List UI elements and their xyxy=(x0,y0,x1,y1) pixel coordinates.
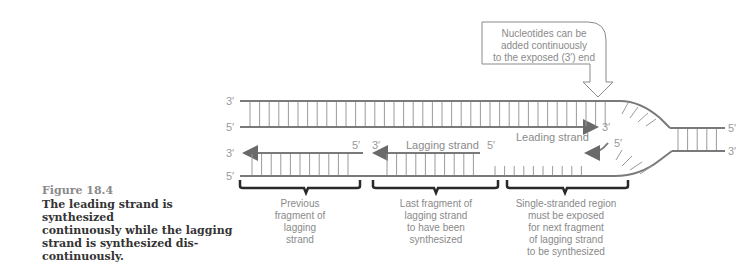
callout-line: Nucleotides can be xyxy=(484,28,604,40)
base-pair-rungs xyxy=(250,102,716,175)
end-label: 5′ xyxy=(352,139,360,151)
caption-line: continuously while the lagging xyxy=(42,224,242,237)
note-line: lagging xyxy=(250,222,350,234)
end-label: 3′ xyxy=(728,145,736,157)
figure-caption: Figure 18.4 The leading strand is synthe… xyxy=(42,184,242,262)
end-label: 5′ xyxy=(226,121,234,133)
end-label: 5′ xyxy=(614,137,622,149)
note-line: Previous xyxy=(250,198,350,210)
callout-text: Nucleotides can be added continuously to… xyxy=(484,28,604,64)
caption-line: strand is synthesized dis- xyxy=(42,237,242,250)
end-label: 5′ xyxy=(487,139,495,151)
note-line: fragment of xyxy=(250,210,350,222)
end-label: 3′ xyxy=(372,139,380,151)
bracket-note-previous-fragment: Previous fragment of lagging strand xyxy=(250,198,350,246)
caption-line: continuously. xyxy=(42,250,242,262)
note-line: for next fragment xyxy=(500,222,632,234)
end-label: 5′ xyxy=(728,122,736,134)
end-label: 3′ xyxy=(226,147,234,159)
note-line: synthesized xyxy=(380,234,492,246)
callout-line: added continuously xyxy=(484,40,604,52)
note-line: to have been xyxy=(380,222,492,234)
figure-number: Figure 18.4 xyxy=(42,184,242,198)
bracket-note-single-stranded-region: Single-stranded region must be exposed f… xyxy=(500,198,632,258)
caption-line: The leading strand is synthesized xyxy=(42,198,242,224)
note-line: Single-stranded region xyxy=(500,198,632,210)
note-line: of lagging strand xyxy=(500,234,632,246)
brackets xyxy=(240,180,628,193)
note-line: lagging strand xyxy=(380,210,492,222)
note-line: Last fragment of xyxy=(380,198,492,210)
note-line: to be synthesized xyxy=(500,246,632,258)
leading-strand-label: Leading strand xyxy=(516,131,589,143)
end-label: 5′ xyxy=(226,170,234,182)
callout-line: to the exposed (3′) end xyxy=(484,52,604,64)
bracket-note-last-fragment: Last fragment of lagging strand to have … xyxy=(380,198,492,246)
note-line: must be exposed xyxy=(500,210,632,222)
lagging-strand-label: Lagging strand xyxy=(406,139,479,151)
end-label: 3′ xyxy=(226,95,234,107)
note-line: strand xyxy=(250,234,350,246)
leading-tip-label: 3′ xyxy=(602,121,610,133)
